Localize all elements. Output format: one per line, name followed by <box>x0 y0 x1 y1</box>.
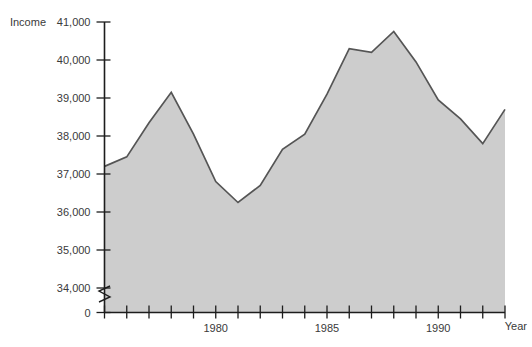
y-tick-label: 38,000 <box>57 130 91 142</box>
y-axis-title: Income <box>10 16 46 28</box>
x-tick-label-1980: 1980 <box>204 322 228 334</box>
y-tick-label: 36,000 <box>57 206 91 218</box>
x-axis-title: Year <box>505 320 528 332</box>
y-tick-label: 40,000 <box>57 54 91 66</box>
x-tick-label-1990: 1990 <box>426 322 450 334</box>
y-tick-label: 37,000 <box>57 168 91 180</box>
chart-canvas: 034,00035,00036,00037,00038,00039,00040,… <box>0 0 532 347</box>
x-tick-label-1985: 1985 <box>315 322 339 334</box>
y-tick-label: 35,000 <box>57 244 91 256</box>
y-tick-label: 41,000 <box>57 16 91 28</box>
y-tick-label: 34,000 <box>57 282 91 294</box>
y-tick-label: 0 <box>84 307 90 319</box>
y-tick-label: 39,000 <box>57 92 91 104</box>
income-by-year-area-chart: 034,00035,00036,00037,00038,00039,00040,… <box>0 0 532 347</box>
